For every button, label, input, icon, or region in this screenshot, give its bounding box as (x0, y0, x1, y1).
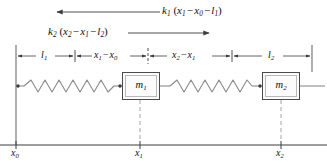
dimension-row (18, 48, 310, 64)
dimension-label-l2: l2 (268, 50, 274, 61)
mass-block-m1: m1 (122, 72, 160, 100)
axis-tick-label-x0: x0 (11, 148, 19, 159)
axis-tick-label-x2: x2 (276, 148, 284, 159)
force-label-k2: k2 (x2−x1−l2) (48, 26, 108, 39)
axis-tick-label-x1: x1 (135, 148, 143, 159)
dimension-label-l1: l1 (41, 50, 47, 61)
force-label-k1: k1 (x1−x0−l1) (162, 5, 222, 18)
dimension-label-x2-x1: x2−x1 (172, 50, 195, 61)
dimension-label-x1-x0: x1−x0 (94, 50, 117, 61)
spring-mass-diagram: k1 (x1−x0−l1) k2 (x2−x1−l2) l1 x1−x0 x2−… (0, 0, 327, 163)
spring-k2 (160, 80, 262, 92)
mass-block-m2: m2 (262, 72, 300, 100)
spring-k1 (16, 80, 122, 92)
mass-label-m2: m2 (275, 80, 286, 92)
mass-label-m1: m1 (135, 80, 146, 92)
